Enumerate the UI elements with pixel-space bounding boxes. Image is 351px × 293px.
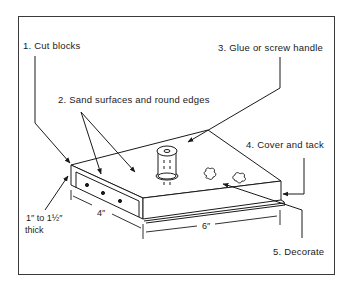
width-dimension-label: 4″ — [97, 208, 105, 218]
step-5-label: 5. Decorate — [273, 246, 324, 257]
step-3-label: 3. Glue or screw handle — [218, 42, 323, 53]
step-2-number: 2. — [58, 94, 66, 105]
thickness-label-line1: 1″ to 1½″ — [26, 213, 62, 223]
step-4-text: Cover and tack — [257, 139, 324, 150]
length-dimension-label: 6″ — [202, 221, 210, 231]
step-1-label: 1. Cut blocks — [23, 40, 81, 51]
step-5-number: 5. — [273, 246, 281, 257]
step-2-label: 2. Sand surfaces and round edges — [58, 94, 210, 105]
step-1-text: Cut blocks — [34, 40, 80, 51]
step-1-number: 1. — [23, 40, 31, 51]
step-5-text: Decorate — [284, 246, 324, 257]
thickness-label-line2: thick — [25, 225, 44, 235]
handle-spool — [156, 146, 178, 185]
step-3-number: 3. — [218, 42, 226, 53]
step-2-text: Sand surfaces and round edges — [69, 94, 209, 105]
step-3-text: Glue or screw handle — [229, 42, 323, 53]
step-4-number: 4. — [246, 139, 254, 150]
step-4-label: 4. Cover and tack — [246, 139, 324, 150]
